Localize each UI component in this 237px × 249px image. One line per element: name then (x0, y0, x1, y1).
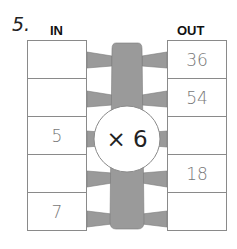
in-cell-3: 5 (27, 116, 87, 155)
in-cell-5: 7 (27, 192, 87, 231)
in-cell-1[interactable] (27, 40, 87, 79)
out-column: 36 54 18 (167, 40, 227, 231)
out-cell-1: 36 (167, 40, 227, 79)
in-cell-2[interactable] (27, 78, 87, 117)
in-column: 5 7 (27, 40, 87, 231)
operation-label: × 6 (94, 106, 160, 172)
out-cell-5[interactable] (167, 192, 227, 231)
out-cell-4: 18 (167, 154, 227, 193)
out-cell-2: 54 (167, 78, 227, 117)
in-cell-4[interactable] (27, 154, 87, 193)
out-cell-3[interactable] (167, 116, 227, 155)
